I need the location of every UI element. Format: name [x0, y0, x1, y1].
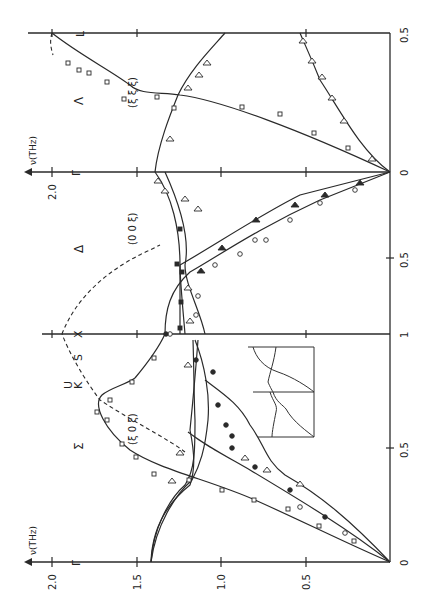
- delta-dashed: [62, 245, 160, 334]
- sigma-ta2-curve: [205, 380, 390, 562]
- tick-1-0: 1.0: [216, 574, 227, 590]
- xi-1: 1: [399, 332, 410, 338]
- direction-xixixi: (ξ ξ ξ): [127, 77, 138, 108]
- sigma-ta-curve: [188, 432, 390, 562]
- data-markers: [66, 38, 376, 543]
- inset-schematic: [248, 347, 314, 437]
- dispersion-curves: [51, 33, 390, 562]
- sigma-dashed: [62, 334, 185, 452]
- xi-0-5: 0.5: [399, 442, 410, 458]
- tick-0-5: 0.5: [301, 574, 312, 590]
- l-label: L: [74, 30, 87, 37]
- tick-1-5: 1.5: [132, 574, 143, 590]
- gamma-label: Γ: [70, 559, 83, 566]
- lambda-label: Λ: [72, 96, 86, 105]
- arrow-icon: [24, 168, 32, 176]
- tick-2-0-top: 2.0: [47, 184, 58, 200]
- xi-tick-labels: 0 0.5 1 0.5 0 0.5: [399, 27, 410, 566]
- xi-0-mid: 0: [399, 170, 410, 176]
- x-label: X: [72, 330, 85, 338]
- xi-0-5-top: 0.5: [399, 27, 410, 43]
- direction-00xi: (0 0 ξ): [127, 212, 138, 245]
- sigma-label: Σ: [72, 442, 86, 450]
- sigma-optic-2: [151, 340, 195, 562]
- symmetry-labels: Γ Γ L X S U K Σ Δ Λ (ξ 0 ξ) (0 0 ξ) (ξ ξ…: [62, 30, 138, 566]
- k-label: K: [72, 381, 85, 389]
- delta-ta-curve: [165, 172, 390, 334]
- delta-label: Δ: [72, 244, 86, 253]
- freq-axis-label-top: ν(THz): [28, 136, 38, 165]
- tick-2-0: 2.0: [47, 574, 58, 590]
- lambda-la-curve: [52, 33, 390, 172]
- arrow-icon: [24, 558, 32, 566]
- frequency-tick-labels: 2.0 1.5 1.0 0.5 2.0 ν(THz) ν(THz): [28, 136, 312, 590]
- gamma-label-top: Γ: [70, 169, 83, 176]
- phonon-dispersion-chart: 2.0 1.5 1.0 0.5 2.0 ν(THz) ν(THz) 0 0.5 …: [0, 0, 427, 604]
- delta-la-curve: [180, 172, 390, 334]
- freq-axis-label: ν(THz): [28, 526, 38, 555]
- sigma-upper-curve: [135, 334, 165, 378]
- xi-0: 0: [399, 560, 410, 566]
- xi-0-5-b: 0.5: [399, 252, 410, 268]
